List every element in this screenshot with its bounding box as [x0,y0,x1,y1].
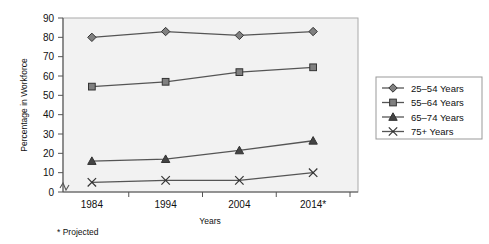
x-axis-tick-label: 1984 [81,199,104,210]
x-axis-tick-labels: 1984199420042014* [81,199,327,210]
plot-area-background [63,18,358,192]
y-axis-tick-label: 70 [43,51,55,62]
data-point-square [236,69,243,76]
y-axis-tick-label: 10 [43,167,55,178]
line-chart: 0102030405060708090 1984199420042014* Pe… [0,0,489,244]
x-axis-tick-label: 2004 [228,199,251,210]
y-axis-tick-label: 50 [43,90,55,101]
y-axis-tick-label: 0 [48,187,54,198]
y-axis-tick-label: 40 [43,109,55,120]
legend-item-label: 75+ Years [411,126,454,137]
y-axis-tick-labels: 0102030405060708090 [43,13,55,198]
y-axis-tick-label: 20 [43,148,55,159]
legend-square-marker [390,99,397,106]
x-axis-ticks [129,192,350,197]
x-axis-tick-label: 1994 [155,199,178,210]
data-point-square [89,83,96,90]
y-axis-title: Percentage in Workforce [19,58,29,152]
y-axis-tick-label: 60 [43,71,55,82]
x-axis-title: Years [199,216,220,226]
chart-container: 0102030405060708090 1984199420042014* Pe… [0,0,489,244]
data-point-square [310,64,317,71]
y-axis-tick-label: 90 [43,13,55,24]
legend-item-label: 65–74 Years [411,112,464,123]
legend-item-label: 55–64 Years [411,97,464,108]
y-axis-tick-label: 30 [43,129,55,140]
y-axis-ticks [58,18,63,192]
footnote-text: * Projected [57,227,99,237]
data-point-square [162,78,169,85]
y-axis-tick-label: 80 [43,32,55,43]
x-axis-tick-label: 2014* [300,199,326,210]
legend-item-label: 25–54 Years [411,83,464,94]
